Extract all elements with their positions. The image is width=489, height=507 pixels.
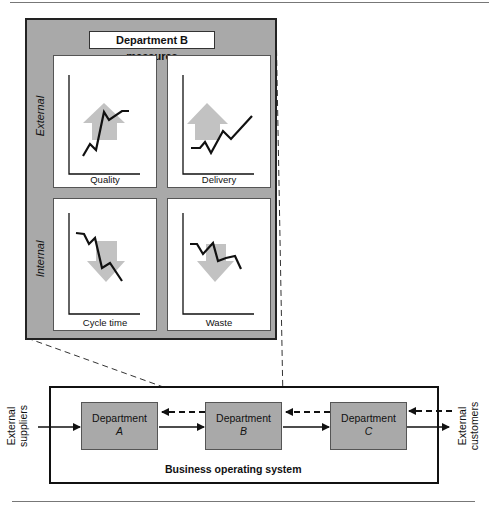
external-suppliers-text: External suppliers (5, 403, 29, 449)
external-customers-text: External customers (456, 398, 480, 454)
external-customers-label: External customers (456, 396, 480, 456)
external-suppliers-label: External suppliers (5, 396, 29, 456)
flow-arrows (0, 0, 489, 507)
